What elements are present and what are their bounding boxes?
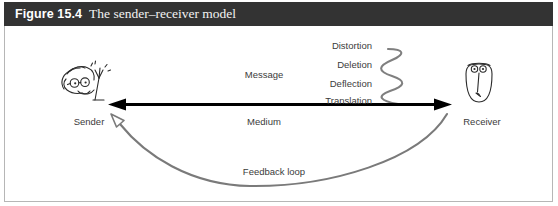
medium-label: Medium [247,117,281,127]
receiver-figure-icon [466,63,492,102]
feedback-loop-label: Feedback loop [243,167,305,177]
noise-squiggle [381,49,402,104]
receiver-label: Receiver [463,117,501,127]
sender-figure-icon [62,61,111,100]
message-label: Message [245,70,284,80]
noise-label-translation: Translation [325,96,372,106]
noise-label-deletion: Deletion [337,60,372,70]
noise-label-deflection: Deflection [330,79,372,89]
sender-label: Sender [74,117,105,127]
figure-container: Figure 15.4 The sender–receiver model [0,0,558,206]
noise-label-distortion: Distortion [332,41,372,51]
message-medium-arrow [108,99,452,111]
